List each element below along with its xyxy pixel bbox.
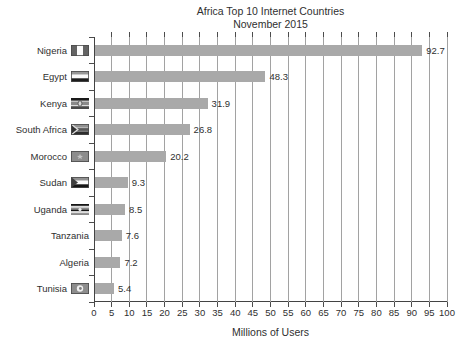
gridline bbox=[447, 37, 448, 302]
x-axis-label: Millions of Users bbox=[94, 326, 447, 338]
gridline bbox=[341, 37, 342, 302]
bar bbox=[95, 71, 265, 82]
category-label-row: Algeria bbox=[0, 249, 89, 276]
category-label-row: Tanzania bbox=[0, 223, 89, 250]
y-axis-tick bbox=[89, 196, 94, 197]
y-axis-tick bbox=[89, 90, 94, 91]
x-axis-top-tick bbox=[394, 32, 395, 37]
category-label: Tanzania bbox=[51, 230, 89, 241]
category-label-row: Uganda bbox=[0, 196, 89, 223]
x-axis-top-tick bbox=[323, 32, 324, 37]
x-axis-top-tick bbox=[447, 32, 448, 37]
category-label-row: Morocco bbox=[0, 143, 89, 170]
nigeria-flag-icon bbox=[71, 45, 89, 56]
category-label-row: Nigeria bbox=[0, 37, 89, 64]
x-axis-top-tick bbox=[217, 32, 218, 37]
chart-title: Africa Top 10 Internet Countries bbox=[94, 5, 447, 17]
category-label-row: Sudan bbox=[0, 170, 89, 197]
bar bbox=[95, 151, 166, 162]
y-axis-tick bbox=[89, 143, 94, 144]
bar bbox=[95, 45, 422, 56]
y-axis-tick bbox=[89, 222, 94, 223]
bar-value-label: 7.6 bbox=[126, 230, 139, 241]
bar-value-label: 26.8 bbox=[194, 124, 213, 135]
south-africa-flag-icon bbox=[71, 124, 89, 135]
bar-value-label: 5.4 bbox=[118, 283, 131, 294]
bar-value-label: 92.7 bbox=[426, 45, 445, 56]
y-axis-tick bbox=[89, 37, 94, 38]
gridline bbox=[358, 37, 359, 302]
sudan-flag-icon bbox=[71, 177, 89, 188]
bar-value-label: 31.9 bbox=[212, 98, 231, 109]
bar bbox=[95, 230, 122, 241]
morocco-flag-icon bbox=[71, 151, 89, 162]
x-axis-top-tick bbox=[129, 32, 130, 37]
bar-value-label: 9.3 bbox=[132, 177, 145, 188]
tunisia-flag-icon bbox=[71, 283, 89, 294]
gridline bbox=[429, 37, 430, 302]
bar-value-label: 8.5 bbox=[129, 204, 142, 215]
x-axis-top-tick bbox=[164, 32, 165, 37]
y-axis-tick bbox=[89, 116, 94, 117]
chart-subtitle: November 2015 bbox=[94, 18, 447, 30]
x-axis-tick-label: 100 bbox=[432, 307, 462, 318]
bar bbox=[95, 257, 120, 268]
x-axis-top-tick bbox=[341, 32, 342, 37]
bar bbox=[95, 124, 190, 135]
category-label-row: South Africa bbox=[0, 117, 89, 144]
y-axis-tick bbox=[89, 169, 94, 170]
category-label: Algeria bbox=[59, 257, 89, 268]
y-axis-tick bbox=[89, 302, 94, 303]
category-label: Egypt bbox=[43, 71, 67, 82]
gridline bbox=[376, 37, 377, 302]
x-axis-top-tick bbox=[182, 32, 183, 37]
x-axis-top-tick bbox=[252, 32, 253, 37]
category-label-row: Egypt bbox=[0, 64, 89, 91]
x-axis-top-tick bbox=[111, 32, 112, 37]
y-axis-tick bbox=[89, 275, 94, 276]
egypt-flag-icon bbox=[71, 71, 89, 82]
x-axis-top-tick bbox=[270, 32, 271, 37]
category-label: Kenya bbox=[40, 98, 67, 109]
x-axis-top-tick bbox=[199, 32, 200, 37]
category-label: Sudan bbox=[40, 177, 67, 188]
category-label: Tunisia bbox=[37, 283, 67, 294]
bar bbox=[95, 204, 125, 215]
bar-value-label: 20.2 bbox=[170, 151, 189, 162]
x-axis-top-tick bbox=[305, 32, 306, 37]
y-axis-tick bbox=[89, 63, 94, 64]
x-axis-top-tick bbox=[376, 32, 377, 37]
category-label: Uganda bbox=[34, 204, 67, 215]
uganda-flag-icon bbox=[71, 204, 89, 215]
category-label: Nigeria bbox=[37, 45, 67, 56]
gridline bbox=[411, 37, 412, 302]
bar bbox=[95, 283, 114, 294]
x-axis-top-tick bbox=[358, 32, 359, 37]
x-axis-top-tick bbox=[288, 32, 289, 37]
category-label-row: Tunisia bbox=[0, 276, 89, 303]
plot-area: 92.748.331.926.820.29.38.57.67.25.4 bbox=[94, 37, 447, 302]
bar-value-label: 48.3 bbox=[269, 71, 288, 82]
kenya-flag-icon bbox=[71, 98, 89, 109]
gridline bbox=[323, 37, 324, 302]
category-label-row: Kenya bbox=[0, 90, 89, 117]
bar bbox=[95, 177, 128, 188]
y-axis-tick bbox=[89, 249, 94, 250]
x-axis-top-tick bbox=[146, 32, 147, 37]
bar bbox=[95, 98, 208, 109]
x-axis-top-tick bbox=[235, 32, 236, 37]
gridline bbox=[394, 37, 395, 302]
category-label: Morocco bbox=[31, 151, 67, 162]
gridline bbox=[305, 37, 306, 302]
x-axis-top-tick bbox=[429, 32, 430, 37]
x-axis-top-tick bbox=[411, 32, 412, 37]
category-label: South Africa bbox=[16, 124, 67, 135]
bar-value-label: 7.2 bbox=[124, 257, 137, 268]
chart-canvas: Africa Top 10 Internet Countries Novembe… bbox=[0, 0, 468, 354]
